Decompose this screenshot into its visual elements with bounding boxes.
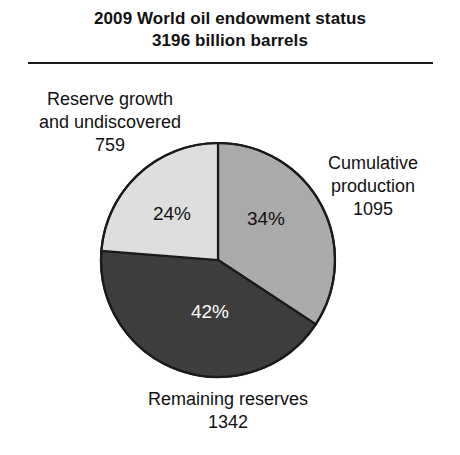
callout-cumulative-production: Cumulative production 1095 [292,152,454,221]
callout-cumulative-production-value: 1095 [292,198,454,221]
callout-cumulative-production-line-1: Cumulative [328,153,418,173]
title-divider [28,62,433,64]
chart-title-line-2: 3196 billion barrels [0,30,460,52]
callout-remaining-reserves: Remaining reserves 1342 [78,388,378,434]
callout-reserve-growth: Reserve growth and undiscovered 759 [10,88,210,157]
chart-title-line-1: 2009 World oil endowment status [0,8,460,30]
callout-reserve-growth-line-1: Reserve growth [47,89,173,109]
callout-reserve-growth-value: 759 [10,134,210,157]
chart-title: 2009 World oil endowment status 3196 bil… [0,8,460,52]
callout-reserve-growth-line-2: and undiscovered [39,112,181,132]
slice-percent-remaining-reserves: 42% [182,301,238,323]
callout-remaining-reserves-line-1: Remaining reserves [148,389,308,409]
pie-chart-figure: 2009 World oil endowment status 3196 bil… [0,0,460,455]
callout-cumulative-production-line-2: production [331,176,415,196]
slice-percent-cumulative-production: 34% [238,208,294,230]
pie-slice-reserve-growth[interactable] [101,143,218,260]
slice-percent-reserve-growth: 24% [144,203,200,225]
callout-remaining-reserves-value: 1342 [78,411,378,434]
